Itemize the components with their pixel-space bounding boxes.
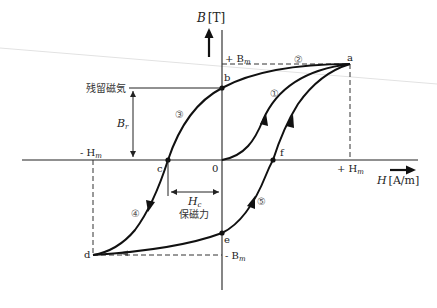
point-f-label: f — [280, 147, 285, 158]
hc-label: Hc — [187, 195, 202, 209]
point-e-label: e — [224, 234, 230, 245]
scan-artifact-line — [0, 48, 437, 84]
point-c-label: c — [157, 163, 163, 174]
segment-5-label: ⑤ — [257, 196, 266, 207]
point-a-label: a — [347, 52, 353, 63]
origin-label: 0 — [212, 163, 218, 174]
segment-1-label: ① — [270, 88, 279, 99]
curve-5-lower-direction-arrow-icon — [247, 196, 255, 209]
b-axis-label: B[T] — [196, 11, 225, 25]
h-axis-label: H[A/m] — [376, 174, 419, 187]
point-d-label: d — [84, 249, 91, 260]
remanence-label: 残留磁気 — [86, 82, 126, 94]
coercivity-label: 保磁力 — [179, 208, 209, 220]
plus-hm-label: + Hm — [337, 163, 364, 176]
segment-2-label: ② — [294, 54, 303, 65]
minus-hm-label: - Hm — [80, 147, 102, 160]
segment-3-label: ③ — [175, 109, 184, 120]
br-label: Br — [116, 117, 129, 131]
b-axis-arrow-icon — [205, 28, 214, 57]
minus-bm-label: - Bm — [225, 250, 246, 263]
point-b-label: b — [224, 72, 230, 83]
curve-1-direction-arrow-icon — [260, 113, 268, 126]
segment-4-label: ④ — [131, 208, 140, 219]
hysteresis-diagram: B[T] H[A/m] 0 + Bm - Bm + Hm - Hm a b c … — [0, 0, 437, 308]
point-f-dot — [270, 157, 275, 162]
plus-bm-label: + Bm — [225, 53, 251, 66]
